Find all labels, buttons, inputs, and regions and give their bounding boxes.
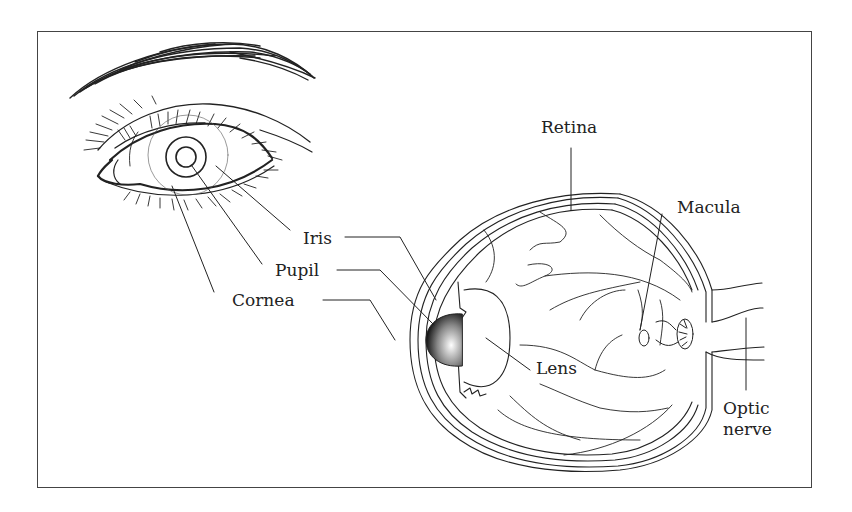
lens [464,289,510,387]
optic-disc [677,319,693,349]
label-iris: Iris [303,230,332,247]
leader-lines-section [323,148,662,370]
macula [639,321,678,346]
optic-nerve [706,283,764,390]
label-pupil: Pupil [275,262,319,279]
label-lens: Lens [536,360,577,377]
eyebrow [70,43,315,98]
retinal-vessels-2 [498,282,672,455]
label-macula: Macula [677,199,741,216]
label-retina: Retina [541,119,597,136]
label-optic-nerve-line2: nerve [723,419,772,440]
retinal-vessels [484,212,692,300]
label-optic-nerve: Optic nerve [723,398,772,441]
label-cornea: Cornea [232,292,295,309]
label-optic-nerve-line1: Optic [723,398,772,419]
leader-lines-external [172,166,290,292]
eye-outline [98,124,272,190]
caruncle [114,160,120,184]
